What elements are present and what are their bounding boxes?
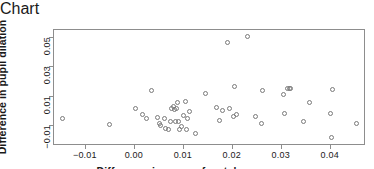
x-tick-mark: [232, 145, 233, 149]
x-tick-label: −0.01: [73, 150, 97, 160]
x-tick-mark: [134, 145, 135, 149]
x-tick-label: 0.01: [174, 150, 192, 160]
data-point: [253, 114, 258, 119]
data-point: [220, 108, 225, 113]
data-point: [133, 106, 138, 111]
x-tick-label: 0.03: [272, 150, 290, 160]
data-point: [155, 115, 160, 120]
x-axis-title: Difference in mean of match scores: [0, 165, 374, 169]
data-point: [187, 109, 192, 114]
y-tick-label: 0.05: [42, 37, 52, 55]
data-point: [175, 100, 180, 105]
data-point: [281, 92, 286, 97]
data-point: [307, 100, 312, 105]
data-point-layer: [54, 30, 364, 144]
data-point: [107, 122, 112, 127]
data-point: [354, 121, 359, 126]
data-point: [232, 84, 237, 89]
x-tick-label: 0.02: [223, 150, 241, 160]
data-point: [301, 119, 306, 124]
plot-area: [53, 29, 365, 145]
data-point: [227, 106, 232, 111]
data-point: [168, 119, 173, 124]
data-point: [60, 116, 65, 121]
x-tick-mark: [85, 145, 86, 149]
y-tick-label: 0.03: [42, 66, 52, 84]
data-point: [184, 127, 189, 132]
x-tick-label: 0.04: [321, 150, 339, 160]
data-point: [245, 34, 250, 39]
data-point: [329, 135, 334, 140]
data-point: [234, 112, 239, 117]
data-point: [214, 105, 219, 110]
data-point: [259, 121, 264, 126]
scatter-plot-figure: Difference in pupil dilation −0.010.010.…: [0, 18, 374, 169]
data-point: [282, 111, 287, 116]
data-point: [328, 111, 333, 116]
x-tick-label: 0.00: [125, 150, 143, 160]
x-tick-mark: [281, 145, 282, 149]
y-tick-label: −0.01: [42, 125, 52, 149]
data-point: [174, 106, 179, 111]
y-axis-title: Difference in pupil dilation: [0, 20, 8, 155]
data-point: [217, 118, 222, 123]
data-point: [176, 119, 181, 124]
data-point: [203, 91, 208, 96]
data-point: [166, 127, 171, 132]
data-point: [260, 88, 265, 93]
data-point: [183, 99, 188, 104]
x-tick-mark: [183, 145, 184, 149]
data-point: [149, 88, 154, 93]
data-point: [144, 116, 149, 121]
data-point: [185, 116, 190, 121]
y-tick-label: 0.01: [42, 96, 52, 114]
x-tick-mark: [330, 145, 331, 149]
data-point: [193, 131, 198, 136]
data-point: [225, 40, 230, 45]
data-point: [330, 87, 335, 92]
data-point: [288, 86, 293, 91]
data-point: [162, 116, 167, 121]
